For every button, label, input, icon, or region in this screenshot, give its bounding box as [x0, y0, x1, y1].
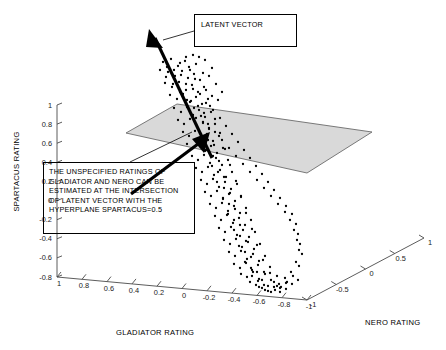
data-point [200, 115, 202, 117]
data-point [195, 167, 197, 169]
gladiator-tick-label: -0.2 [203, 293, 216, 302]
data-point [223, 187, 225, 189]
gladiator-tick-label: -0.8 [278, 300, 291, 309]
data-point [235, 238, 237, 240]
data-point [210, 195, 212, 197]
data-point [212, 140, 214, 142]
data-point [193, 73, 195, 75]
latent-vector-leader-line [163, 31, 194, 40]
latent-vector-callout: LATENT VECTOR [194, 14, 297, 47]
data-point [211, 95, 213, 97]
data-point [203, 86, 205, 88]
spartacus-tick-mark [57, 237, 62, 239]
data-point [179, 62, 181, 64]
data-point [298, 265, 300, 267]
data-point [293, 229, 295, 231]
spartacus-tick-label: -0.4 [39, 234, 52, 243]
gladiator-tick-label: 0.8 [79, 281, 89, 290]
data-point [255, 284, 257, 286]
data-point [232, 222, 234, 224]
data-point [213, 174, 215, 176]
data-point [210, 145, 212, 147]
latent-vector-3d-scatter-figure: 10.80.60.40.20-0.2-0.4-0.6-0.8 10.80.60.… [0, 0, 446, 350]
data-point [267, 181, 269, 183]
data-point [186, 143, 188, 145]
data-point [297, 233, 299, 235]
data-point [218, 186, 220, 188]
spartacus-tick-label: 0.8 [42, 120, 52, 129]
data-point [182, 131, 184, 133]
data-point [194, 78, 196, 80]
data-point [216, 181, 218, 183]
data-point [251, 269, 253, 271]
hyperplane-explanation-callout: THE UNSPECIFIED RATINGS OF GLADIATOR AND… [43, 162, 195, 234]
data-point [269, 266, 271, 268]
data-point [240, 250, 242, 252]
data-point [207, 166, 209, 168]
data-point [207, 98, 209, 100]
nero-tick-label: 0.5 [396, 254, 406, 263]
data-point [227, 210, 229, 212]
data-point [234, 200, 236, 202]
data-point [251, 228, 253, 230]
gladiator-tick-mark [82, 274, 86, 279]
hyperplane-explanation-text: THE UNSPECIFIED RATINGS OF GLADIATOR AND… [49, 167, 194, 215]
data-point [257, 280, 259, 282]
data-point [258, 286, 260, 288]
data-point [204, 59, 206, 61]
data-point [217, 99, 219, 101]
data-point [250, 267, 252, 269]
gladiator-tick-label: 0.4 [129, 286, 139, 295]
data-point [208, 127, 210, 129]
nero-tick-label: 0 [369, 269, 373, 278]
data-point [216, 190, 218, 192]
data-point [170, 58, 172, 60]
data-point [246, 276, 248, 278]
data-point [180, 74, 182, 76]
data-point [197, 159, 199, 161]
data-point [280, 286, 282, 288]
gladiator-tick-mark [132, 279, 136, 284]
data-point [219, 132, 221, 134]
gladiator-tick-group: 10.80.60.40.20-0.2-0.4-0.6-0.8-1 [57, 272, 312, 311]
data-point [213, 144, 215, 146]
gladiator-tick-mark [157, 281, 161, 286]
data-point [256, 244, 258, 246]
data-point [192, 54, 194, 56]
data-point [177, 65, 179, 67]
data-point [273, 286, 275, 288]
data-point [212, 178, 214, 180]
data-point [298, 249, 300, 251]
data-point [236, 234, 238, 236]
data-point [199, 79, 201, 81]
spartacus-tick-mark [57, 256, 62, 258]
data-point [242, 229, 244, 231]
data-point [200, 179, 202, 181]
data-point [188, 135, 190, 137]
data-point [205, 102, 207, 104]
data-point [193, 107, 195, 109]
data-point [173, 107, 175, 109]
data-point [190, 100, 192, 102]
data-point [229, 243, 231, 245]
data-point [204, 191, 206, 193]
data-point [224, 231, 226, 233]
data-point [183, 123, 185, 125]
spartacus-tick-mark [57, 103, 62, 105]
data-point [220, 219, 222, 221]
data-point [244, 251, 246, 253]
data-point [286, 281, 288, 283]
data-point [191, 84, 193, 86]
data-point [181, 70, 183, 72]
data-point [212, 109, 214, 111]
data-point [228, 147, 230, 149]
data-point [241, 246, 243, 248]
data-point [233, 205, 235, 207]
data-point [244, 261, 246, 263]
data-point [267, 290, 269, 292]
data-point [199, 93, 201, 95]
data-point [231, 171, 233, 173]
data-point [255, 165, 257, 167]
data-point [263, 187, 265, 189]
data-point [229, 164, 231, 166]
